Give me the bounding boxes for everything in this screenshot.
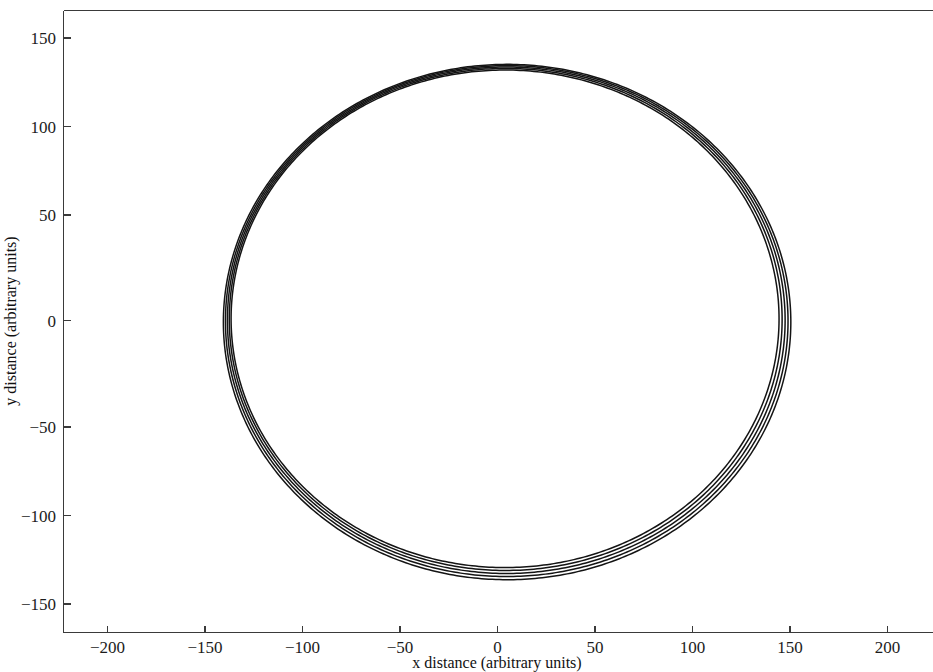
- y-tick-label: 50: [39, 206, 56, 225]
- x-axis-title: x distance (arbitrary units): [412, 654, 581, 672]
- x-tick-label: 200: [875, 638, 901, 657]
- x-tick-label: −100: [285, 638, 320, 657]
- y-tick-label: −100: [21, 507, 56, 526]
- figure-container: −200 −150 −100 −50 0 50 100 150 200 150 …: [0, 0, 933, 672]
- y-tick-label: −50: [29, 418, 56, 437]
- y-tick-label: 150: [31, 29, 57, 48]
- x-tick-label: −50: [387, 638, 414, 657]
- orbit-revolution: [231, 70, 779, 568]
- y-tick-label-group: 150 100 50 0 −50 −100 −150: [21, 29, 56, 614]
- x-tick-label: −200: [90, 638, 125, 657]
- x-tick-label: −150: [187, 638, 222, 657]
- x-tick-marks: [108, 626, 888, 633]
- y-tick-marks: [64, 38, 71, 604]
- y-tick-label: 100: [31, 118, 57, 137]
- y-axis-title: y distance (arbitrary units): [2, 236, 20, 405]
- orbit-plot: −200 −150 −100 −50 0 50 100 150 200 150 …: [0, 0, 933, 672]
- x-tick-label: 150: [777, 638, 803, 657]
- y-tick-label: 0: [48, 312, 57, 331]
- y-tick-label: −150: [21, 595, 56, 614]
- orbit-curve-group: [223, 64, 790, 579]
- x-tick-label: 50: [587, 638, 604, 657]
- x-tick-label: 100: [680, 638, 706, 657]
